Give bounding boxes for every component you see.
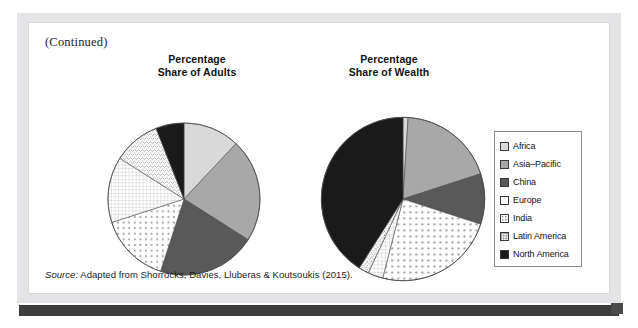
legend-label-latin-america: Latin America (513, 231, 566, 241)
legend-label-africa: Africa (513, 141, 535, 151)
chart-title-wealth-line2: Share of Wealth (314, 66, 464, 79)
legend-swatch-china (500, 178, 509, 187)
figure-root: (Continued) Percentage Share of Adults P… (0, 0, 638, 328)
pie-chart-share-of-adults (104, 119, 264, 279)
legend-label-india: India (513, 213, 532, 223)
chart-title-wealth: Percentage Share of Wealth (314, 53, 464, 78)
legend: Africa Asia–Pacific China Europe India L… (494, 131, 582, 267)
legend-swatch-north-america (500, 250, 509, 259)
legend-label-north-america: North America (513, 249, 569, 259)
source-note: Source: Adapted from Shorrocks, Davies, … (45, 269, 353, 280)
legend-label-china: China (513, 177, 536, 187)
chart-title-wealth-line1: Percentage (314, 53, 464, 66)
legend-item-north-america: North America (500, 245, 581, 263)
chart-title-adults-line1: Percentage (122, 53, 272, 66)
legend-swatch-africa (500, 142, 509, 151)
pie-chart-share-of-wealth (317, 113, 489, 285)
legend-item-latin-america: Latin America (500, 227, 581, 245)
legend-swatch-india (500, 214, 509, 223)
legend-label-europe: Europe (513, 195, 541, 205)
legend-label-asia-pacific: Asia–Pacific (513, 159, 561, 169)
legend-item-asia-pacific: Asia–Pacific (500, 155, 581, 173)
legend-item-china: China (500, 173, 581, 191)
page-shadow-band-tail (611, 303, 623, 314)
legend-item-europe: Europe (500, 191, 581, 209)
source-text: Adapted from Shorrocks, Davies, Lluberas… (80, 269, 352, 280)
figure-panel: (Continued) Percentage Share of Adults P… (28, 22, 610, 294)
chart-title-adults-line2: Share of Adults (122, 66, 272, 79)
continued-label: (Continued) (45, 35, 108, 50)
page-shadow-band (19, 305, 619, 316)
legend-item-africa: Africa (500, 137, 581, 155)
legend-swatch-europe (500, 196, 509, 205)
source-prefix: Source: (45, 269, 78, 280)
legend-swatch-asia-pacific (500, 160, 509, 169)
legend-item-india: India (500, 209, 581, 227)
chart-title-adults: Percentage Share of Adults (122, 53, 272, 78)
legend-swatch-latin-america (500, 232, 509, 241)
